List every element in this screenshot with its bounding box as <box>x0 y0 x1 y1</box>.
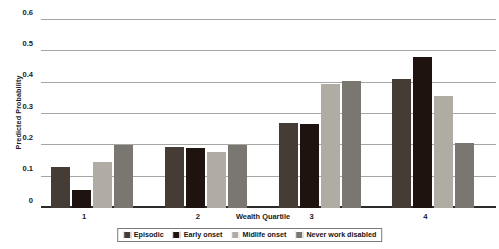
x-axis-title: Wealth Quartile <box>236 212 290 221</box>
y-axis-tick-label: 0 <box>0 195 33 204</box>
x-axis-tick-label: 4 <box>423 212 427 221</box>
y-axis-tick-label: 0.2 <box>0 132 33 141</box>
bar <box>413 57 432 208</box>
y-axis-title: Predicted Probability <box>14 48 23 178</box>
bar <box>321 84 340 208</box>
legend-swatch-icon <box>295 231 303 239</box>
bar <box>93 162 112 208</box>
bar <box>228 145 247 208</box>
x-axis-tick-label-cell: 4 <box>382 211 496 227</box>
bar-groups <box>41 20 496 208</box>
legend-item[interactable]: Early onset <box>173 231 223 239</box>
x-axis-tick-label: 2 <box>196 212 200 221</box>
bar-group <box>155 20 269 208</box>
bar <box>279 123 298 208</box>
legend-label: Never work disabled <box>306 231 376 238</box>
x-axis-tick-label: 1 <box>82 212 86 221</box>
legend-label: Midlife onset <box>242 231 286 238</box>
legend-label: Episodic <box>134 231 164 238</box>
y-axis-tick-label: 0.6 <box>0 7 33 16</box>
legend-item[interactable]: Never work disabled <box>295 231 376 239</box>
bar <box>165 147 184 208</box>
bar <box>207 152 226 208</box>
x-axis-tick-label: 3 <box>309 212 313 221</box>
y-axis-tick-label: 0.1 <box>0 164 33 173</box>
y-axis-tick-label: 0.3 <box>0 101 33 110</box>
legend-label: Early onset <box>184 231 223 238</box>
bar <box>72 190 91 208</box>
legend-item[interactable]: Midlife onset <box>231 231 286 239</box>
bar <box>392 79 411 208</box>
chart-legend: EpisodicEarly onsetMidlife onsetNever wo… <box>117 228 383 242</box>
bar-chart: Predicted Probability 00.10.20.30.40.50.… <box>0 0 499 249</box>
y-axis-tick-label: 0.4 <box>0 70 33 79</box>
legend-item[interactable]: Episodic <box>123 231 164 239</box>
y-axis-tick-label: 0.5 <box>0 38 33 47</box>
bar-group <box>382 20 496 208</box>
bar <box>51 167 70 208</box>
legend-swatch-icon <box>173 231 181 239</box>
bar <box>342 81 361 208</box>
bar-group <box>41 20 155 208</box>
legend-swatch-icon <box>123 231 131 239</box>
bar-group <box>269 20 383 208</box>
legend-swatch-icon <box>231 231 239 239</box>
bar <box>300 124 319 208</box>
bar <box>186 148 205 208</box>
bar <box>455 143 474 208</box>
bar <box>434 96 453 208</box>
x-axis-tick-label-cell: 1 <box>41 211 155 227</box>
bar <box>114 145 133 208</box>
plot-area: 00.10.20.30.40.50.6 <box>41 20 496 208</box>
